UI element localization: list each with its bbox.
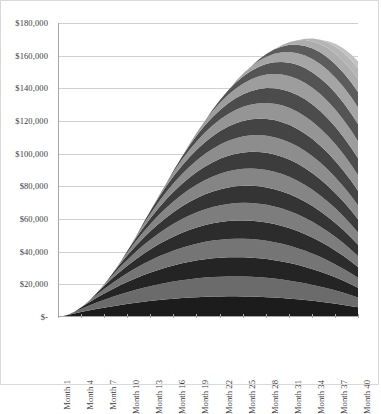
x-axis-tickmark <box>127 314 128 318</box>
x-axis-tick-label: Month 25 <box>247 380 257 414</box>
y-axis-tick-label: $180,000 <box>0 18 53 28</box>
x-axis-tick-label: Month 10 <box>131 380 141 414</box>
y-axis-tick-label: $100,000 <box>0 149 53 159</box>
x-axis-tickmark <box>150 314 151 318</box>
y-axis-tick-label: $20,000 <box>0 279 53 289</box>
x-axis-tickmark <box>196 314 197 318</box>
x-axis-tickmark <box>289 314 290 318</box>
x-axis-tick-label: Month 37 <box>339 380 349 414</box>
x-axis-tick-label: Month 40 <box>362 380 372 414</box>
plot-area <box>58 23 358 317</box>
x-axis: Month 1Month 4Month 7Month 10Month 13Mon… <box>58 318 358 384</box>
y-axis: $180,000$160,000$140,000$120,000$100,000… <box>1 23 53 317</box>
x-axis-tickmark <box>335 314 336 318</box>
x-axis-tick-label: Month 7 <box>108 380 118 410</box>
x-axis-tickmark <box>58 314 59 318</box>
x-axis-tickmark <box>312 314 313 318</box>
stacked-area-series <box>59 23 358 317</box>
y-axis-tick-label: $120,000 <box>0 116 53 126</box>
x-axis-tick-label: Month 16 <box>177 380 187 414</box>
x-axis-tickmark <box>266 314 267 318</box>
x-axis-tick-label: Month 19 <box>200 380 210 414</box>
x-axis-tickmark <box>358 314 359 318</box>
y-axis-tick-label: $160,000 <box>0 51 53 61</box>
x-axis-tickmark <box>243 314 244 318</box>
x-axis-tick-label: Month 28 <box>270 380 280 414</box>
x-axis-tickmark <box>173 314 174 318</box>
x-axis-tickmark <box>81 314 82 318</box>
chart-frame: $180,000$160,000$140,000$120,000$100,000… <box>0 0 379 385</box>
y-axis-tick-label: $40,000 <box>0 247 53 257</box>
x-axis-tick-label: Month 34 <box>316 380 326 414</box>
y-axis-tick-label: $- <box>0 312 53 322</box>
x-axis-tick-label: Month 4 <box>85 380 95 410</box>
x-axis-tick-label: Month 13 <box>154 380 164 414</box>
x-axis-tick-label: Month 1 <box>62 380 72 410</box>
x-axis-tickmark <box>220 314 221 318</box>
x-axis-tick-label: Month 31 <box>293 380 303 414</box>
y-axis-tick-label: $80,000 <box>0 181 53 191</box>
y-axis-tick-label: $140,000 <box>0 83 53 93</box>
x-axis-tick-label: Month 22 <box>224 380 234 414</box>
y-axis-tick-label: $60,000 <box>0 214 53 224</box>
x-axis-tickmark <box>104 314 105 318</box>
